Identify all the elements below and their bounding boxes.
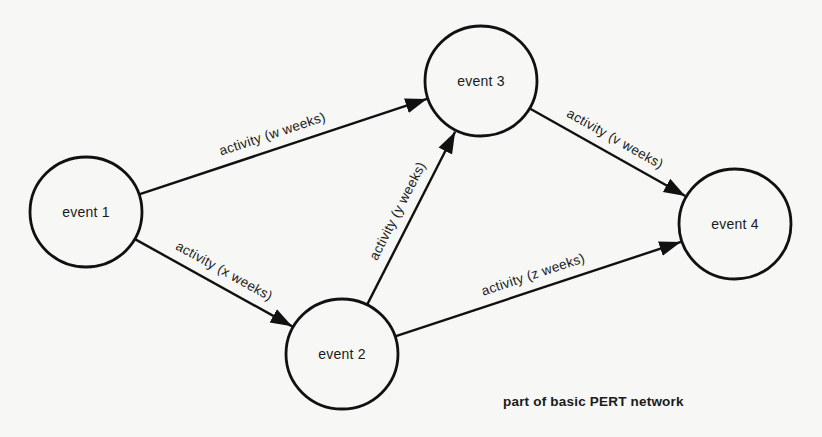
activity-label: activity (v weeks): [564, 106, 666, 172]
event-node-e4: event 4: [679, 169, 791, 279]
activity-arrow: [367, 132, 455, 304]
event-label: event 4: [711, 216, 758, 232]
event-label: event 1: [62, 204, 109, 220]
event-node-e3: event 3: [425, 26, 537, 136]
edge-e1-e2: activity (x weeks): [135, 238, 292, 326]
event-node-e1: event 1: [30, 157, 142, 267]
edge-e2-e4: activity (z weeks): [395, 242, 681, 337]
activity-arrow: [395, 242, 681, 337]
edges-layer: activity (w weeks)activity (x weeks)acti…: [135, 99, 685, 336]
event-label: event 3: [457, 73, 504, 89]
diagram-caption: part of basic PERT network: [503, 394, 684, 409]
activity-arrow: [530, 108, 686, 196]
pert-network-diagram: activity (w weeks)activity (x weeks)acti…: [0, 0, 822, 437]
event-label: event 2: [318, 346, 365, 362]
pert-network-canvas: activity (w weeks)activity (x weeks)acti…: [0, 0, 822, 437]
activity-arrow: [135, 239, 292, 326]
activity-arrow: [139, 99, 427, 194]
activity-label: activity (x weeks): [173, 238, 275, 304]
edge-e3-e4: activity (v weeks): [530, 106, 686, 196]
event-node-e2: event 2: [286, 299, 398, 409]
edge-e1-e3: activity (w weeks): [139, 99, 427, 194]
edge-e2-e3: activity (y weeks): [366, 132, 455, 304]
